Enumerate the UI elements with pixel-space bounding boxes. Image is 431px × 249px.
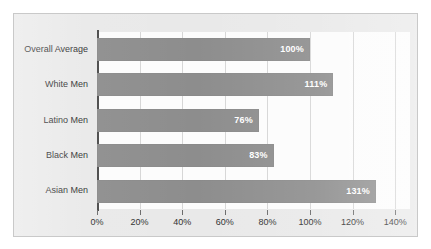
x-tick-mark-100% [310,210,311,215]
bar-value-label: 131% [97,180,370,203]
x-tick-mark-20% [140,210,141,215]
x-tick-mark-140% [395,210,396,215]
x-tick-label-120%: 120% [341,217,364,227]
x-tick-label-60%: 60% [216,217,234,227]
category-label-white-men: White Men [13,79,88,89]
x-tick-mark-60% [225,210,226,215]
x-tick-label-80%: 80% [258,217,276,227]
x-tick-label-40%: 40% [173,217,191,227]
category-label-asian-men: Asian Men [13,185,88,195]
x-tick-label-100%: 100% [298,217,321,227]
bar-value-label: 76% [97,109,253,132]
bar-chart-figure: 100%111%76%83%131% Overall AverageWhite … [0,0,431,249]
category-label-overall-average: Overall Average [13,44,88,54]
x-tick-mark-40% [182,210,183,215]
x-tick-label-0%: 0% [90,217,103,227]
bar-value-label: 100% [97,38,304,61]
x-tick-label-20%: 20% [131,217,149,227]
chart-frame: 100%111%76%83%131% Overall AverageWhite … [13,13,418,237]
x-tick-label-140%: 140% [384,217,407,227]
x-tick-mark-120% [353,210,354,215]
x-tick-mark-80% [267,210,268,215]
bar-value-label: 111% [97,73,327,96]
bar-value-label: 83% [97,144,268,167]
category-label-black-men: Black Men [13,150,88,160]
x-tick-mark-0% [97,210,98,215]
category-label-latino-men: Latino Men [13,115,88,125]
